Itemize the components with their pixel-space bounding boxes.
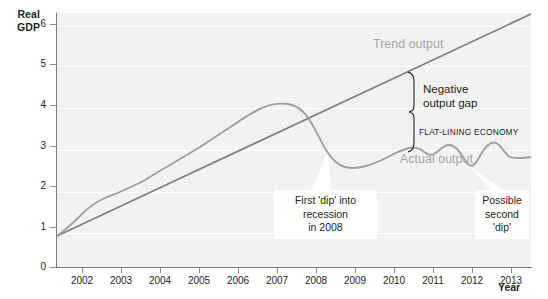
- callout-second-dip: Possible second 'dip': [475, 190, 529, 239]
- callout-second-dip-line1: Possible: [481, 194, 523, 208]
- callout-second-dip-line3: 'dip': [481, 221, 523, 235]
- chart-figure: Real GDP Year 0 1 2 3 4 5 6 2002 2003 20…: [0, 0, 548, 299]
- trend-output-label: Trend output: [373, 37, 443, 51]
- data-curves: [0, 0, 548, 299]
- callout-first-dip-line1: First 'dip' into: [280, 194, 371, 208]
- output-gap-bracket: [408, 72, 414, 152]
- callout-first-dip: First 'dip' into recession in 2008: [274, 190, 377, 239]
- negative-output-gap-line2: output gap: [423, 96, 477, 110]
- callout-second-dip-line2: second: [481, 208, 523, 222]
- second-dip-leader: [468, 165, 503, 190]
- callout-first-dip-line2: recession: [280, 208, 371, 222]
- negative-output-gap-label: Negative output gap: [423, 82, 477, 110]
- negative-output-gap-line1: Negative: [423, 82, 477, 96]
- actual-output-label: Actual output: [400, 152, 473, 166]
- callout-first-dip-line3: in 2008: [280, 221, 371, 235]
- first-dip-leader: [311, 153, 331, 190]
- flatlining-economy-label: FLAT-LINING ECONOMY: [419, 127, 519, 137]
